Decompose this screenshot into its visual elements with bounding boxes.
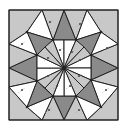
vertex-dot [26,106,29,109]
mark-dot [56,85,58,87]
tiling-svg [0,0,127,130]
vertex-dot [36,80,39,83]
mark-dot [79,59,81,61]
vertex-dot [100,106,103,109]
vertex-dot [75,95,78,98]
mark-dot [47,57,49,59]
vertex-dot [90,54,93,57]
mark-dot [71,51,73,53]
mark-dot [79,23,81,25]
mark-dot [21,89,23,91]
vertex-dot [90,79,93,82]
mark-dot [59,49,61,51]
mark-dot [21,43,23,45]
vertex-dot [26,31,29,34]
mark-dot [105,89,107,91]
mark-dot [78,109,80,111]
tile-polygons [9,10,118,120]
vertex-dot [63,67,66,70]
vertex-dot [100,31,103,34]
mark-dot [47,75,49,77]
tiling-diagram [0,0,127,130]
mark-dot [69,85,71,87]
vertex-dot [52,95,55,98]
mark-dot [78,75,80,77]
mark-dot [106,47,108,49]
vertex-dot [75,39,78,42]
vertex-dot [36,54,39,57]
mark-dot [48,109,50,111]
mark-dot [49,21,51,23]
vertex-dot [52,39,55,42]
